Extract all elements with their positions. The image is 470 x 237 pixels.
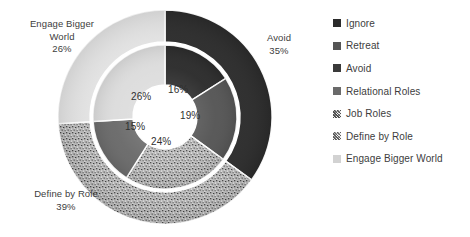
legend-item-define-by-role[interactable]: Define by Role [333, 125, 470, 148]
chart-legend: Ignore Retreat Avoid Relational Roles Jo… [333, 12, 470, 170]
legend-item-avoid[interactable]: Avoid [333, 57, 470, 80]
legend-item-job-roles[interactable]: Job Roles [333, 102, 470, 125]
legend-swatch-icon [333, 19, 341, 27]
inner-ring [93, 45, 237, 189]
legend-item-label: Relational Roles [346, 86, 420, 97]
legend-item-label: Avoid [346, 63, 371, 74]
legend-item-relational-roles[interactable]: Relational Roles [333, 80, 470, 103]
legend-item-label: Engage Bigger World [346, 153, 443, 164]
legend-swatch-icon [333, 132, 341, 140]
legend-item-label: Ignore [346, 18, 375, 29]
legend-item-label: Job Roles [346, 108, 391, 119]
inner-label-engage-bigger-world: 26% [131, 91, 151, 102]
outer-label-define-by-role: Define by Role 39% [12, 188, 120, 213]
legend-swatch-icon [333, 42, 341, 50]
inner-label-retreat: 19% [180, 110, 200, 121]
legend-item-ignore[interactable]: Ignore [333, 12, 470, 35]
legend-item-label: Retreat [346, 40, 380, 51]
legend-swatch-icon [333, 155, 341, 163]
legend-item-label: Define by Role [346, 131, 413, 142]
inner-label-relational-roles: 15% [125, 121, 145, 132]
legend-swatch-icon [333, 64, 341, 72]
legend-swatch-icon [333, 110, 341, 118]
outer-label-engage-bigger-world: Engage Bigger World 26% [8, 18, 116, 56]
outer-label-avoid: Avoid 35% [248, 32, 310, 57]
inner-label-job-roles: 24% [151, 136, 171, 147]
legend-item-engage-bigger-world[interactable]: Engage Bigger World [333, 148, 470, 171]
inner-label-ignore: 16% [168, 84, 188, 95]
doughnut-chart: Engage Bigger World 26% Avoid 35% Define… [0, 0, 320, 237]
legend-swatch-icon [333, 87, 341, 95]
legend-item-retreat[interactable]: Retreat [333, 35, 470, 58]
